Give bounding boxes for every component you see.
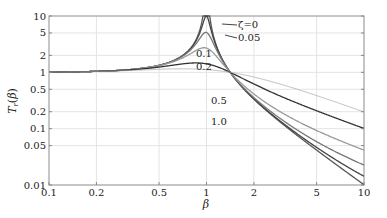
y-tick-label: 10 xyxy=(33,11,46,22)
annotation-label: ζ=0 xyxy=(238,19,258,30)
x-tick-label: 0.2 xyxy=(88,187,104,198)
y-axis-ticks: 0.010.050.10.20.512510 xyxy=(24,11,364,191)
annotation-label: 0.5 xyxy=(211,95,227,106)
y-tick-label: 0.05 xyxy=(24,140,46,151)
grid-lines xyxy=(49,16,364,185)
y-tick-label: 0.1 xyxy=(30,123,46,134)
y-tick-label: 0.2 xyxy=(30,106,46,117)
x-tick-label: 0.5 xyxy=(151,187,167,198)
annotation-label: 0.1 xyxy=(196,48,212,59)
annotation-label: 1.0 xyxy=(211,116,227,127)
x-axis-label: β xyxy=(202,198,209,211)
x-tick-label: 2 xyxy=(251,187,257,198)
svg-text:Tr(β): Tr(β) xyxy=(6,88,20,114)
annotation-label: 0.2 xyxy=(196,61,212,72)
annotation-label: 0.05 xyxy=(238,32,260,43)
y-tick-label: 1 xyxy=(40,67,46,78)
y-tick-label: 2 xyxy=(40,50,46,61)
x-tick-label: 10 xyxy=(358,187,371,198)
curve-annotations: ζ=00.050.10.20.51.0 xyxy=(196,19,260,127)
y-tick-label: 0.5 xyxy=(30,84,46,95)
x-tick-label: 1 xyxy=(203,187,209,198)
transmissibility-chart: 0.10.20.512510 0.010.050.10.20.512510 ζ=… xyxy=(0,0,387,218)
y-tick-label: 0.01 xyxy=(24,180,46,191)
y-axis-label: Tr(β) xyxy=(6,88,20,114)
y-tick-label: 5 xyxy=(40,27,46,38)
x-axis-ticks: 0.10.20.512510 xyxy=(41,182,370,198)
x-tick-label: 5 xyxy=(313,187,319,198)
